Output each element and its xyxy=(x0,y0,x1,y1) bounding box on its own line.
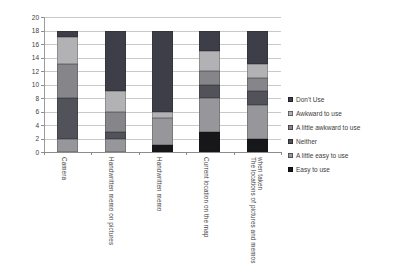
legend-swatch xyxy=(288,125,293,130)
chart-legend: Don't UseAwkward to useA little awkward … xyxy=(288,96,360,180)
bar-segment xyxy=(57,64,78,98)
bar-column xyxy=(199,17,220,152)
legend-label: A little awkward to use xyxy=(296,124,360,131)
x-axis-category-label: Current location on the map xyxy=(203,157,210,275)
legend-label: Don't Use xyxy=(296,96,324,103)
x-axis-tick xyxy=(91,152,92,155)
bar-segment xyxy=(247,105,268,139)
bar-segment xyxy=(247,78,268,92)
legend-swatch xyxy=(288,139,293,144)
legend-swatch xyxy=(288,111,293,116)
bar-segment xyxy=(105,112,126,132)
bar-segment xyxy=(152,145,173,152)
bar-column xyxy=(105,17,126,152)
bar-segment xyxy=(105,31,126,92)
legend-label: Neither xyxy=(296,138,317,145)
x-axis-category-label: The locations of pictures and memos when… xyxy=(250,157,264,275)
bar-segment xyxy=(57,139,78,153)
x-axis-line xyxy=(44,152,281,153)
y-axis-tick-label: 16 xyxy=(13,41,39,48)
x-axis-tick xyxy=(281,152,282,155)
bar-segment xyxy=(199,98,220,132)
bar-segment xyxy=(199,71,220,85)
legend-item: Don't Use xyxy=(288,96,360,103)
x-axis-tick xyxy=(44,152,45,155)
x-axis-category-label: Handwritten memo xyxy=(156,157,163,275)
y-axis-tick-label: 14 xyxy=(13,54,39,61)
bar-segment xyxy=(247,91,268,105)
y-axis-line xyxy=(44,17,45,152)
x-axis-category-label: Handwritten memo on pictures xyxy=(108,157,115,275)
y-axis-tick-label: 8 xyxy=(13,95,39,102)
legend-item: A little awkward to use xyxy=(288,124,360,131)
y-axis-tick-label: 6 xyxy=(13,108,39,115)
x-axis-category-label: Camera xyxy=(61,157,68,275)
bar-segment xyxy=(105,139,126,153)
bar-segment xyxy=(247,139,268,153)
y-axis-tick-label: 20 xyxy=(13,14,39,21)
bar-segment xyxy=(199,132,220,152)
legend-label: A little easy to use xyxy=(296,152,348,159)
bar-segment xyxy=(199,85,220,99)
bar-segment xyxy=(152,31,173,112)
legend-swatch xyxy=(288,97,293,102)
bar-segment xyxy=(152,118,173,145)
bar-segment xyxy=(152,112,173,119)
legend-item: A little easy to use xyxy=(288,152,360,159)
bar-column xyxy=(57,17,78,152)
bar-segment xyxy=(199,31,220,51)
legend-label: Awkward to use xyxy=(296,110,342,117)
bar-segment xyxy=(247,64,268,78)
y-axis-tick-label: 12 xyxy=(13,68,39,75)
x-axis-tick xyxy=(186,152,187,155)
bar-segment xyxy=(105,91,126,111)
legend-label: Easy to use xyxy=(296,166,330,173)
y-axis-tick-label: 2 xyxy=(13,135,39,142)
legend-item: Awkward to use xyxy=(288,110,360,117)
bar-segment xyxy=(57,98,78,139)
legend-swatch xyxy=(288,167,293,172)
legend-item: Easy to use xyxy=(288,166,360,173)
bar-segment xyxy=(57,31,78,38)
x-axis-tick xyxy=(234,152,235,155)
legend-swatch xyxy=(288,153,293,158)
bar-segment xyxy=(247,31,268,65)
stacked-bar-chart: 02468101214161820CameraHandwritten memo … xyxy=(0,0,394,279)
bar-segment xyxy=(57,37,78,64)
bar-segment xyxy=(199,51,220,71)
bar-column xyxy=(152,17,173,152)
legend-item: Neither xyxy=(288,138,360,145)
y-axis-tick-label: 18 xyxy=(13,27,39,34)
bar-column xyxy=(247,17,268,152)
y-axis-tick-label: 4 xyxy=(13,122,39,129)
y-axis-tick-label: 10 xyxy=(13,81,39,88)
bar-segment xyxy=(105,132,126,139)
y-axis-tick-label: 0 xyxy=(13,149,39,156)
x-axis-tick xyxy=(139,152,140,155)
